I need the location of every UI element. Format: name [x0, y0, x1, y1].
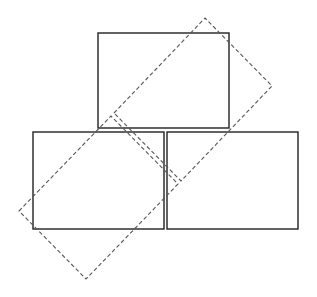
dashed-rotated-rectangles: [19, 18, 272, 279]
solid-rectangles: [33, 33, 298, 229]
lower-rotated-rect: [19, 116, 178, 279]
diagram-canvas: [0, 0, 317, 297]
bottom-right-rect: [167, 132, 298, 229]
upper-rotated-rect: [114, 18, 272, 181]
top-rect: [98, 33, 229, 128]
bottom-left-rect: [33, 132, 164, 229]
